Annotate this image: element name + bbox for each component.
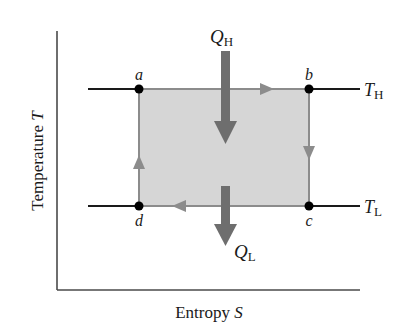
x-axis-label: Entropy S: [175, 303, 243, 322]
label-c: c: [305, 212, 312, 229]
label-a: a: [135, 66, 143, 83]
y-axis-label: Temperature T: [28, 110, 47, 211]
point-b: [305, 85, 314, 94]
label-q-low: QL: [234, 241, 256, 264]
point-a: [135, 85, 144, 94]
carnot-ts-diagram: a b c d TH TL QH QL Entropy S Temperatur…: [0, 0, 411, 333]
label-t-high: TH: [364, 80, 383, 102]
label-q-high: QH: [210, 26, 233, 49]
point-d: [135, 202, 144, 211]
point-c: [305, 202, 314, 211]
label-t-low: TL: [364, 197, 382, 219]
label-d: d: [135, 212, 144, 229]
label-b: b: [305, 66, 313, 83]
